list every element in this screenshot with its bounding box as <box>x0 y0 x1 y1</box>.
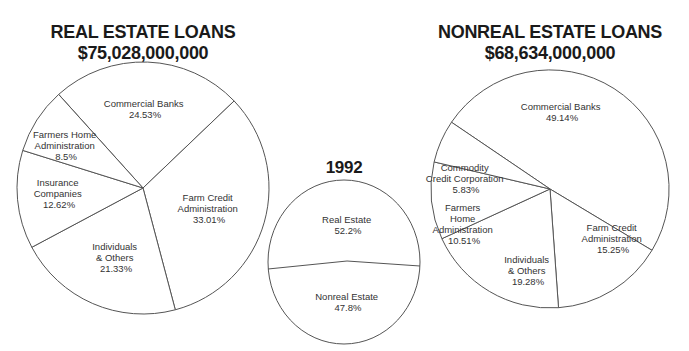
summary-pie-outline <box>268 180 420 344</box>
pie-charts: Commercial Banks 24.53% Farmers Home Adm… <box>0 0 689 351</box>
summary-pie <box>268 180 420 344</box>
